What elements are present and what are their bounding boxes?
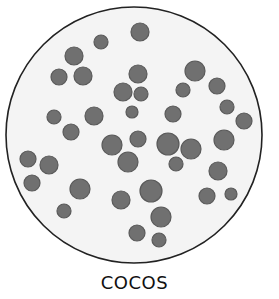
colony-dot: [181, 139, 201, 159]
colony-dot: [176, 83, 190, 97]
colony-dot: [70, 179, 90, 199]
figure-label: COCOS: [0, 272, 269, 293]
colony-dot: [94, 35, 108, 49]
colony-dot: [129, 225, 145, 241]
colony-dot: [140, 180, 162, 202]
colony-dot: [40, 156, 58, 174]
colony-dot: [157, 133, 179, 155]
colony-dot: [209, 162, 227, 180]
colony-dot: [130, 131, 146, 147]
colony-dot: [169, 157, 183, 171]
colony-dot: [85, 107, 103, 125]
colony-dot: [199, 188, 215, 204]
colony-dot: [126, 106, 138, 118]
colony-dot: [102, 135, 122, 155]
colony-dot: [131, 23, 149, 41]
colony-dot: [185, 61, 205, 81]
colony-dot: [65, 47, 83, 65]
colony-dot: [51, 69, 67, 85]
colony-dot: [165, 106, 181, 122]
colony-dot: [20, 151, 36, 167]
colony-dot: [134, 87, 148, 101]
colony-dot: [151, 207, 171, 227]
colony-dot: [63, 124, 79, 140]
colony-dot: [225, 188, 237, 200]
colony-dot: [214, 130, 234, 150]
colony-dot: [220, 100, 234, 114]
colony-dot: [236, 113, 252, 129]
petri-dish-illustration: [0, 0, 279, 270]
colony-dot: [24, 175, 40, 191]
colony-dot: [152, 233, 166, 247]
colony-dot: [209, 78, 225, 94]
colony-dot: [74, 67, 92, 85]
colony-dot: [114, 83, 132, 101]
colony-dot: [47, 110, 61, 124]
colony-dot: [129, 65, 147, 83]
colony-dot: [118, 152, 138, 172]
colony-dot: [57, 204, 71, 218]
colony-dot: [112, 191, 130, 209]
